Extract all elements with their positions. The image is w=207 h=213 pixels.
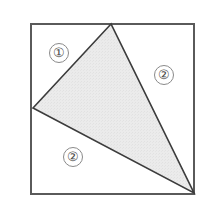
region-label-1: ① xyxy=(49,43,69,63)
figure-canvas xyxy=(0,0,207,213)
geometry-figure: ① ② ② xyxy=(0,0,207,213)
region-label-2-bottom: ② xyxy=(63,147,83,167)
region-label-2-right: ② xyxy=(154,65,174,85)
